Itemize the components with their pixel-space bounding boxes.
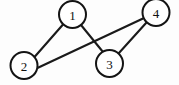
node-label-2: 2 [21, 59, 28, 74]
graph-diagram: 1234 [0, 0, 179, 85]
edges-layer [35, 19, 147, 69]
graph-node-3: 3 [96, 50, 123, 77]
node-label-1: 1 [69, 8, 76, 23]
graph-canvas: 1234 [0, 0, 179, 85]
graph-node-4: 4 [143, 0, 170, 26]
node-label-3: 3 [106, 57, 113, 72]
graph-edge-1-2 [35, 25, 64, 58]
nodes-layer: 1234 [11, 0, 170, 79]
graph-node-1: 1 [59, 1, 86, 28]
node-label-4: 4 [153, 6, 160, 21]
graph-node-2: 2 [11, 52, 38, 79]
